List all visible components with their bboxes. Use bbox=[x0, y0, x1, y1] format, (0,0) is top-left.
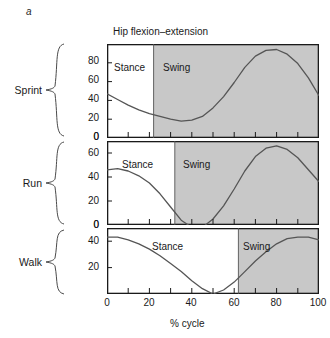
sprint-ytick-20: 20 bbox=[77, 112, 99, 123]
xtick-40: 40 bbox=[178, 297, 204, 308]
run-ytick-top-0: 0 bbox=[77, 131, 99, 142]
xaxis-title: % cycle bbox=[170, 318, 204, 329]
run-plot bbox=[107, 141, 319, 225]
chart-title: Hip flexion–extension bbox=[113, 26, 208, 37]
run-stance-label: Stance bbox=[122, 159, 153, 170]
sprint-stance-label: Stance bbox=[114, 62, 145, 73]
gait-label-run: Run bbox=[2, 177, 42, 189]
figure-root: a Hip flexion–extension Sprint Run Walk bbox=[0, 0, 330, 338]
sprint-ytick-80: 80 bbox=[77, 55, 99, 66]
sprint-plot bbox=[107, 44, 319, 138]
walk-swing-label: Swing bbox=[243, 241, 270, 252]
run-swing-label: Swing bbox=[183, 159, 210, 170]
run-ytick-40: 40 bbox=[77, 171, 99, 182]
walk-ytick-40: 40 bbox=[77, 235, 99, 246]
brace-run bbox=[44, 140, 66, 226]
run-ytick-60: 60 bbox=[77, 147, 99, 158]
xtick-80: 80 bbox=[263, 297, 289, 308]
gait-label-walk: Walk bbox=[2, 256, 42, 268]
walk-plot bbox=[107, 228, 319, 294]
sprint-ytick-40: 40 bbox=[77, 93, 99, 104]
xtick-20: 20 bbox=[136, 297, 162, 308]
run-ytick-20: 20 bbox=[77, 195, 99, 206]
brace-walk bbox=[44, 228, 66, 296]
panel-letter: a bbox=[26, 6, 32, 17]
gait-label-sprint: Sprint bbox=[2, 84, 42, 96]
walk-ytick-20: 20 bbox=[77, 261, 99, 272]
sprint-ytick-60: 60 bbox=[77, 74, 99, 85]
brace-sprint bbox=[44, 42, 66, 138]
sprint-swing-label: Swing bbox=[163, 62, 190, 73]
xtick-60: 60 bbox=[221, 297, 247, 308]
xtick-0: 0 bbox=[94, 297, 120, 308]
walk-ytick-top-0: 0 bbox=[77, 219, 99, 230]
walk-stance-label: Stance bbox=[152, 241, 183, 252]
xtick-100: 100 bbox=[305, 297, 330, 308]
